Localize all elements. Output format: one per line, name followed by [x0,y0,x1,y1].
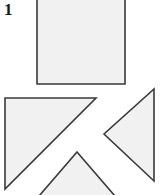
tangram-shapes-figure [0,0,160,195]
left-pointing-triangle-shape [104,89,154,181]
up-pointing-triangle-shape [33,152,121,195]
figure-number-label: 1 [4,0,13,19]
figure-panel: 1 [0,0,160,195]
square-shape [37,0,125,84]
